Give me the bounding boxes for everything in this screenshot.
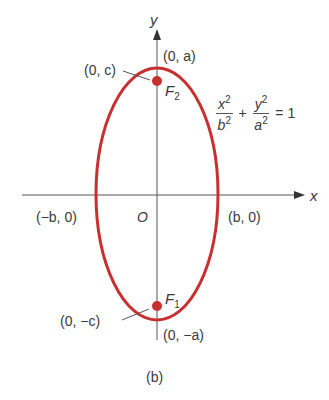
term2-numerator: y xyxy=(255,96,262,112)
focus-f2-name: F xyxy=(165,82,174,99)
focus-f1-coord-label: (0, −c) xyxy=(60,314,100,328)
focus-f1-name: F xyxy=(165,290,174,307)
x-axis-label: x xyxy=(310,188,318,203)
term1-num-exp: 2 xyxy=(225,94,231,105)
leader-line-f2 xyxy=(123,71,150,80)
focus-f2-label: F2 xyxy=(165,83,180,102)
equation-equals: = 1 xyxy=(275,105,295,121)
focus-f1-sub: 1 xyxy=(174,299,180,310)
figure-caption: (b) xyxy=(146,370,163,384)
vertex-right-label: (b, 0) xyxy=(228,210,261,224)
term2-num-exp: 2 xyxy=(262,94,268,105)
y-axis-arrow-icon xyxy=(153,29,161,40)
focus-f1 xyxy=(152,301,162,311)
vertex-top-label: (0, a) xyxy=(163,49,196,63)
term2-denominator: a xyxy=(254,116,262,132)
origin-label: O xyxy=(137,210,148,224)
vertex-bottom-label: (0, −a) xyxy=(163,328,204,342)
equation-term1: x2 b2 xyxy=(216,94,233,132)
term1-den-exp: 2 xyxy=(225,115,231,126)
vertex-left-label: (−b, 0) xyxy=(36,210,77,224)
focus-f2-coord-label: (0, c) xyxy=(84,63,116,77)
equation-term2: y2 a2 xyxy=(253,94,270,132)
y-axis-label: y xyxy=(150,12,158,27)
equation-plus: + xyxy=(239,105,247,121)
ellipse-equation: x2 b2 + y2 a2 = 1 xyxy=(214,94,295,132)
focus-f2 xyxy=(152,76,162,86)
term1-numerator: x xyxy=(218,96,225,112)
focus-f2-sub: 2 xyxy=(174,91,180,102)
term2-den-exp: 2 xyxy=(262,115,268,126)
focus-f1-label: F1 xyxy=(165,291,180,310)
x-axis-arrow-icon xyxy=(294,191,305,199)
